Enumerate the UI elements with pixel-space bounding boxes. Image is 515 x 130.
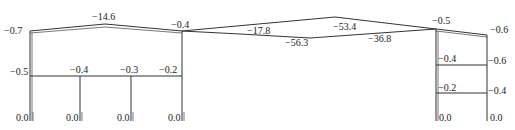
label-base-1: 0.0: [16, 112, 29, 123]
label-middle-upper-left: −17.8: [247, 25, 270, 36]
middle-upper-line: [182, 17, 436, 31]
label-left-roof-ridge: −14.6: [92, 11, 115, 22]
label-left-beam-mid1: −0.4: [70, 64, 88, 75]
moment-diagram: −0.7 −14.6 −0.4 −0.5 −0.4 −0.3 −0.2 0.0 …: [0, 0, 515, 130]
label-base-2: 0.0: [66, 112, 79, 123]
label-middle-upper-peak: −53.4: [333, 21, 356, 32]
label-right-beam1-left: −0.4: [438, 53, 456, 64]
left-frame: −0.7 −14.6 −0.4 −0.5 −0.4 −0.3 −0.2 0.0 …: [4, 11, 189, 123]
label-right-beam2-right: −0.4: [488, 85, 506, 96]
label-base-4: 0.0: [168, 112, 181, 123]
left-roof-line-inner: [30, 27, 182, 33]
middle-lower-line: [182, 29, 436, 38]
label-right-roof-right: −0.6: [490, 24, 508, 35]
label-right-beam1-right: −0.6: [488, 55, 506, 66]
label-left-roof-left: −0.7: [4, 25, 22, 36]
label-base-3: 0.0: [117, 112, 130, 123]
left-roof-line: [30, 24, 182, 31]
label-right-base-1: 0.0: [439, 112, 452, 123]
moment-diagram-svg: −0.7 −14.6 −0.4 −0.5 −0.4 −0.3 −0.2 0.0 …: [0, 0, 515, 130]
label-left-roof-right: −0.4: [171, 19, 189, 30]
label-left-beam-left: −0.5: [10, 66, 28, 77]
label-left-beam-right: −0.2: [159, 64, 177, 75]
label-right-roof-left: −0.5: [432, 15, 450, 26]
label-left-beam-mid2: −0.3: [120, 64, 138, 75]
middle-span: −17.8 −53.4 −56.3 −36.8: [182, 17, 436, 48]
right-frame: −0.5 −0.6 −0.4 −0.6 −0.2 −0.4 0.0 0.0: [432, 15, 508, 123]
label-right-base-2: 0.0: [490, 112, 503, 123]
label-right-beam2-left: −0.2: [438, 82, 456, 93]
label-middle-lower-right: −36.8: [368, 33, 391, 44]
label-middle-lower-mid: −56.3: [285, 37, 308, 48]
